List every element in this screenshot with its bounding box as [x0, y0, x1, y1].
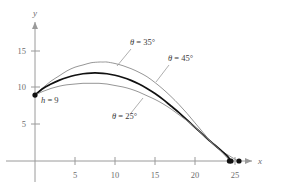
- leader-lines-group: [117, 49, 169, 113]
- leader-line-theta-35: [117, 49, 131, 66]
- x-tick-label-20: 20: [191, 170, 200, 180]
- y-axis-arrowhead: [32, 22, 38, 29]
- equals-25: =: [116, 111, 125, 121]
- x-tick-label-25: 25: [231, 170, 240, 180]
- chart-canvas: x y 5 10 15 20 25 5 10 15: [0, 0, 284, 195]
- equals-35: =: [134, 37, 143, 47]
- theta-value-45: 45°: [181, 53, 193, 63]
- x-tick-label-15: 15: [151, 170, 160, 180]
- equals-h: =: [45, 95, 54, 105]
- h-value: 9: [54, 95, 58, 105]
- x-tick-label-10: 10: [111, 170, 120, 180]
- x-axis-label: x: [257, 156, 262, 166]
- x-axis-arrowhead: [245, 158, 252, 164]
- x-tick-label-5: 5: [73, 170, 77, 180]
- equals-45: =: [172, 53, 181, 63]
- label-theta-25: θ = 25°: [112, 111, 137, 121]
- y-ticks-group: 5 10 15: [18, 46, 41, 129]
- label-theta-45: θ = 45°: [168, 53, 193, 63]
- y-tick-label-10: 10: [18, 82, 27, 92]
- y-tick-label-5: 5: [22, 119, 26, 129]
- label-initial-height: h = 9: [41, 95, 59, 105]
- point-markers-group: [32, 92, 241, 163]
- landing-point-35: [236, 158, 241, 163]
- y-tick-label-15: 15: [18, 46, 27, 56]
- label-theta-35: θ = 35°: [130, 37, 155, 47]
- x-ticks-group: 5 10 15 20 25: [73, 157, 239, 180]
- theta-value-25: 25°: [125, 111, 137, 121]
- curve-theta-25: [35, 83, 229, 161]
- leader-line-theta-45: [156, 65, 169, 82]
- launch-point: [32, 92, 37, 97]
- theta-value-35: 35°: [143, 37, 155, 47]
- landing-point-45: [228, 158, 233, 163]
- y-axis-label: y: [32, 8, 37, 18]
- projectile-trajectory-figure: x y 5 10 15 20 25 5 10 15: [0, 0, 284, 195]
